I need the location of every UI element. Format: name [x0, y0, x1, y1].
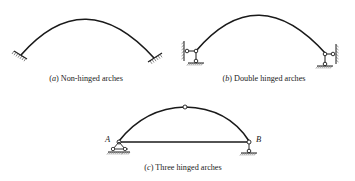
arch-a-curve: [21, 19, 154, 58]
caption-a-title: Non-hinged arches: [61, 74, 123, 83]
arch-diagrams: [0, 0, 355, 181]
arch-b-curve: [196, 15, 326, 54]
caption-a: (a) Non-hinged arches: [49, 74, 123, 83]
fixed-support-left-icon: [12, 51, 27, 61]
caption-b: (b) Double hinged arches: [223, 74, 306, 83]
caption-c: (c) Three hinged arches: [144, 163, 221, 172]
point-label-a: A: [105, 134, 110, 144]
point-label-b: B: [256, 134, 261, 144]
figure-a-non-hinged-arch: [12, 19, 162, 64]
figure-b-double-hinged-arch: [182, 15, 339, 68]
caption-b-title: Double hinged arches: [234, 74, 305, 83]
arch-c-left-half: [119, 107, 185, 141]
caption-a-letter: a: [52, 74, 56, 83]
crown-hinge-icon: [183, 105, 187, 109]
caption-c-title: Three hinged arches: [155, 163, 221, 172]
arch-c-right-half: [185, 107, 249, 141]
figure-c-three-hinged-arch: [107, 105, 257, 156]
caption-b-letter: b: [225, 74, 229, 83]
caption-c-letter: c: [147, 163, 151, 172]
